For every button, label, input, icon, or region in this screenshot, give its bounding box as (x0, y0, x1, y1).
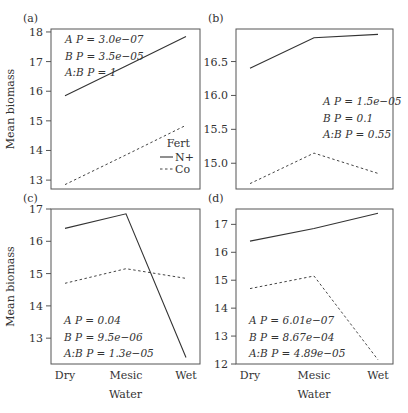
panel-d-y-tick-label: 15 (214, 274, 228, 287)
panel-d-annotation-line: A P = 6.01e−07 (248, 314, 335, 326)
panel-b-label: (b) (208, 12, 224, 25)
panel-d-y-tick-label: 14 (214, 302, 228, 315)
panel-c-y-axis-label: Mean biomass (4, 246, 17, 327)
panel-c-y-tick-label: 14 (29, 300, 43, 313)
panel-d-annotation-line: B P = 8.67e−04 (248, 331, 334, 343)
panel-c-y-tick-label: 17 (29, 203, 43, 216)
panel-c-y-tick-label: 15 (29, 268, 43, 281)
panel-d-y-tick-label: 13 (214, 330, 228, 343)
panel-c-annotation-line: A:B P = 1.3e−05 (63, 347, 154, 359)
panel-b-annotation-line: A:B P = 0.55 (322, 128, 391, 140)
panel-a-y-tick-label: 18 (29, 26, 43, 39)
panel-a-y-tick-label: 14 (29, 144, 43, 157)
panel-c-x-tick-label: Wet (175, 369, 197, 382)
panel-b-y-tick-label: 15.0 (204, 157, 229, 170)
panel-a-y-axis-label: Mean biomass (4, 68, 17, 149)
panel-b-series-co-line (250, 153, 378, 184)
panel-c-x-tick-label: Mesic (109, 369, 142, 382)
panel-d-y-tick-label: 16 (214, 246, 228, 259)
panel-b-frame (236, 29, 393, 189)
panel-c-y-tick-label: 13 (29, 332, 43, 345)
panel-b-annotation-line: B P = 0.1 (322, 112, 373, 124)
panel-a-series-co-line (65, 125, 186, 184)
panel-d-label: (d) (208, 192, 224, 205)
panel-d-x-axis-label: Water (297, 388, 331, 401)
panel-a-y-tick-label: 16 (29, 85, 43, 98)
panel-b-y-tick-label: 16.0 (204, 89, 229, 102)
panel-d-x-tick-label: Dry (240, 369, 261, 382)
panel-a-annotation-line: A:B P = 1 (64, 66, 116, 78)
panel-a-y-tick-label: 13 (29, 174, 43, 187)
panel-c-annotation-line: B P = 9.5e−06 (63, 331, 143, 343)
panel-a-y-tick-label: 15 (29, 115, 43, 128)
panel-a-annotation-line: B P = 3.5e−05 (64, 50, 144, 62)
panel-d-x-tick-label: Wet (367, 369, 389, 382)
panel-d-y-tick-label: 12 (214, 358, 228, 371)
panel-d-y-tick-label: 17 (214, 218, 228, 231)
panel-a-annotation-line: A P = 3.0e−07 (64, 33, 144, 45)
panel-c-annotation-line: A P = 0.04 (63, 314, 121, 326)
panel-b-y-tick-label: 15.5 (204, 123, 229, 136)
panel-c-y-tick-label: 16 (29, 235, 43, 248)
panel-d-x-tick-label: Mesic (297, 369, 330, 382)
panel-d-annotation-line: A:B P = 4.89e−05 (248, 347, 346, 359)
panel-b-series-n-line (250, 34, 378, 68)
panel-a-legend-entry: Co (175, 163, 190, 176)
panel-c-x-axis-label: Water (109, 388, 143, 401)
panel-a-y-tick-label: 17 (29, 56, 43, 69)
panel-d-series-n-line (250, 213, 378, 241)
panel-a-label: (a) (23, 12, 38, 25)
panel-b-annotation-line: A P = 1.5e−05 (322, 95, 402, 107)
panel-c-x-tick-label: Dry (55, 369, 76, 382)
figure: (a)131415161718Mean biomassA P = 3.0e−07… (0, 0, 408, 413)
panel-a-legend-title: Fert (167, 137, 191, 150)
panel-c-series-co-line (65, 269, 186, 284)
panel-b-y-tick-label: 16.5 (204, 56, 229, 69)
